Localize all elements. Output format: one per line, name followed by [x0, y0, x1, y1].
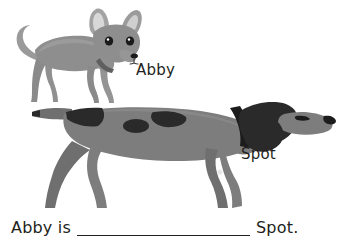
large-dog-hind-legs	[45, 141, 107, 208]
worksheet-page: Abby	[0, 0, 344, 247]
large-dog-spot-small	[123, 119, 149, 133]
small-dog-illustration-abby	[8, 6, 148, 106]
large-dog-muzzle	[278, 112, 333, 135]
large-dog-belly-mark	[217, 169, 222, 174]
sentence-suffix-text: Spot.	[256, 218, 298, 237]
small-dog-eye-left	[105, 36, 113, 45]
small-dog-tail	[17, 25, 38, 60]
large-dog-illustration-spot	[28, 96, 340, 216]
sentence-prefix-text: Abby is	[11, 218, 71, 237]
answer-blank-line[interactable]	[77, 235, 250, 236]
caption-abby: Abby	[136, 61, 175, 79]
caption-spot: Spot	[241, 145, 276, 163]
fill-in-the-blank-sentence: Abby is Spot.	[11, 218, 333, 244]
large-dog-front-legs	[205, 146, 242, 208]
small-dog-eye-right	[126, 36, 134, 45]
